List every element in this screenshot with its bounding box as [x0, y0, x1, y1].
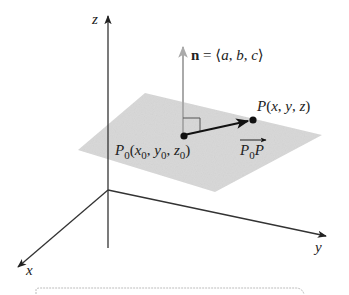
point-p-dot: [249, 116, 256, 123]
z-axis-label: z: [91, 11, 98, 27]
plane-normal-diagram: z y x n = ⟨a, b, c⟩ P(x, y, z) P0(x0, y0…: [0, 0, 349, 295]
point-p-label: P(x, y, z): [256, 98, 310, 115]
y-axis: [108, 190, 326, 236]
normal-label: n = ⟨a, b, c⟩: [191, 47, 264, 63]
caption-box-border: [36, 288, 304, 294]
x-axis: [18, 190, 108, 267]
x-axis-label: x: [25, 262, 33, 278]
y-axis-label: y: [313, 239, 322, 255]
point-p0-dot: [180, 132, 187, 139]
